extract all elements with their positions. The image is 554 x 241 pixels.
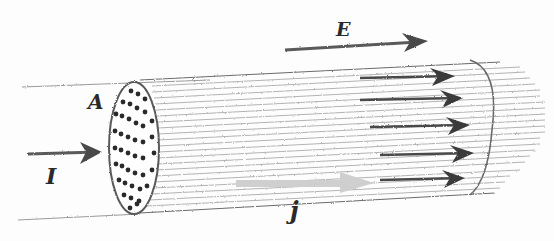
electric-field-arrow [285,33,428,52]
current-density-label: j [290,196,299,225]
cross-section-area [109,82,159,214]
electric-field-label: E [336,18,350,40]
diagram-canvas [0,0,554,241]
area-label: A [88,90,104,114]
conductor-diagram: A I E j [0,0,554,241]
current-label: I [46,163,56,189]
current-arrow [28,142,102,164]
